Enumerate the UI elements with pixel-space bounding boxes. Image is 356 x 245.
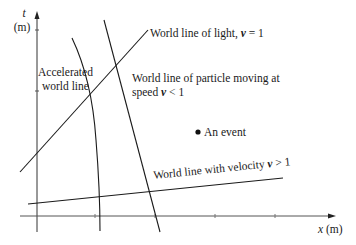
x-axis-var: x bbox=[318, 223, 323, 235]
t-axis bbox=[35, 11, 40, 232]
t-axis-arrow-icon bbox=[35, 11, 40, 19]
x-axis bbox=[20, 214, 336, 219]
light-label: World line of light, v = 1 bbox=[150, 26, 264, 40]
x-axis-unit: (m) bbox=[326, 223, 343, 235]
x-axis-arrow-icon bbox=[328, 214, 336, 219]
t-axis-label: t (m) bbox=[14, 6, 34, 34]
superluminal-world-line bbox=[28, 178, 283, 204]
particle-label: World line of particle moving at speed v… bbox=[132, 71, 280, 99]
event-label: An event bbox=[204, 125, 246, 139]
x-axis-label: x (m) bbox=[318, 222, 343, 236]
event-dot-icon bbox=[195, 129, 200, 134]
light-world-line bbox=[20, 30, 148, 172]
t-axis-unit: (m) bbox=[10, 20, 34, 34]
subluminal-world-line bbox=[104, 20, 160, 232]
t-axis-var: t bbox=[22, 7, 25, 19]
accelerated-label: Accelerated world line bbox=[38, 65, 93, 93]
